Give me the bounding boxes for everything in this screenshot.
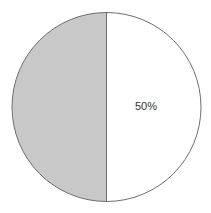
slice-label-white: 50% [135,100,157,112]
pie-chart: 50% [0,0,211,213]
pie-slice-gray [12,13,107,202]
